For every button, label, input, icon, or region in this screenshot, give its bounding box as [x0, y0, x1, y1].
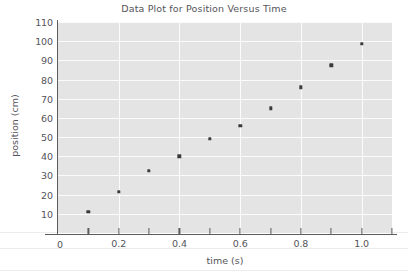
x-tick-mark — [361, 228, 362, 234]
x-tick-mark — [88, 228, 89, 234]
x-tick-mark — [118, 228, 119, 234]
x-tick-mark — [270, 228, 271, 234]
x-tick-mark — [300, 228, 301, 234]
x-axis-tick-labels: 0.20.40.60.81.0 — [0, 0, 408, 276]
x-tick-label: 1.0 — [342, 238, 382, 249]
x-tick-mark — [209, 228, 210, 234]
x-tick-label: 0.6 — [220, 238, 260, 249]
x-tick-mark — [240, 228, 241, 234]
x-tick-mark — [331, 228, 332, 234]
y-axis-title: position (cm) — [9, 66, 20, 186]
chart-figure: Data Plot for Position Versus Time 10203… — [0, 0, 408, 276]
x-tick-mark — [391, 228, 392, 234]
x-tick-mark — [179, 228, 180, 234]
x-tick-label: 0.4 — [159, 238, 199, 249]
x-axis-title: time (s) — [58, 255, 392, 266]
x-tick-label: 0.2 — [99, 238, 139, 249]
x-tick-label: 0.8 — [281, 238, 321, 249]
x-tick-mark — [148, 228, 149, 234]
